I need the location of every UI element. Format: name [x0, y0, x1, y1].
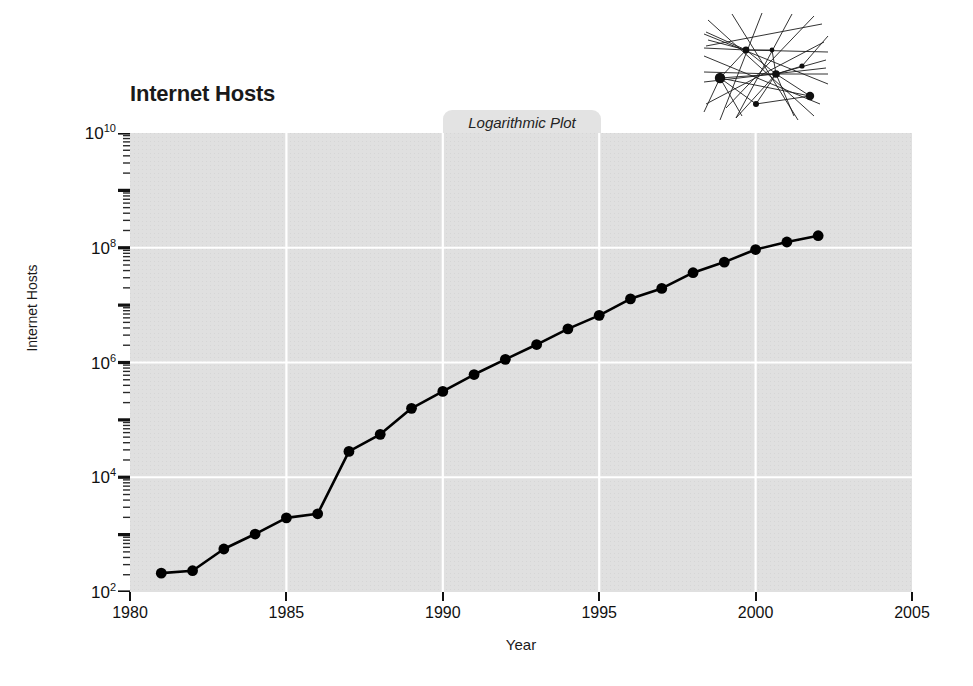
x-axis-tick: [442, 592, 444, 601]
data-point-marker: [813, 230, 824, 241]
y-tick-mantissa: 10: [91, 239, 110, 258]
data-point-marker: [656, 283, 667, 294]
data-point-marker: [500, 354, 511, 365]
page-title: Internet Hosts: [130, 81, 275, 107]
data-point-marker: [469, 369, 480, 380]
data-point-marker: [594, 310, 605, 321]
y-axis-tick-label: 1010: [85, 122, 116, 144]
data-point-marker: [750, 244, 761, 255]
y-tick-exponent: 6: [110, 352, 116, 364]
logarithmic-plot-tab[interactable]: Logarithmic Plot: [443, 110, 601, 135]
x-axis-title: Year: [130, 636, 912, 653]
x-axis-tick-label: 1995: [581, 604, 617, 622]
x-axis-tick-label: 2005: [894, 604, 930, 622]
y-tick-exponent: 8: [110, 237, 116, 249]
x-axis-tick: [598, 592, 600, 601]
data-point-marker: [344, 446, 355, 457]
x-axis-tick-label: 1985: [269, 604, 305, 622]
y-axis-tick-label: 102: [91, 581, 116, 603]
data-point-marker: [563, 323, 574, 334]
data-point-marker: [531, 339, 542, 350]
x-axis-tick-label: 2000: [738, 604, 774, 622]
y-axis-tick-label: 104: [91, 466, 116, 488]
y-axis-labels: 1021041061081010: [0, 133, 116, 592]
y-tick-mantissa: 10: [91, 583, 110, 602]
y-axis-ticks: [118, 133, 130, 592]
y-tick-mantissa: 10: [91, 353, 110, 372]
data-point-marker: [218, 544, 229, 555]
y-tick-exponent: 2: [110, 581, 116, 593]
data-point-marker: [312, 508, 323, 519]
x-axis-tick: [755, 592, 757, 601]
data-point-marker: [781, 237, 792, 248]
y-tick-exponent: 10: [104, 122, 116, 134]
data-point-marker: [406, 403, 417, 414]
y-tick-exponent: 4: [110, 466, 116, 478]
data-point-marker: [250, 529, 261, 540]
x-axis-tick-label: 1990: [425, 604, 461, 622]
data-point-marker: [437, 386, 448, 397]
x-axis-tick: [911, 592, 913, 601]
data-point-marker: [187, 565, 198, 576]
plot-area: [130, 133, 912, 592]
data-point-marker: [375, 429, 386, 440]
network-graph-thumbnail-icon: [702, 12, 830, 122]
y-axis-tick-label: 108: [91, 237, 116, 259]
x-axis-tick: [285, 592, 287, 601]
x-axis-tick-label: 1980: [112, 604, 148, 622]
x-axis-tick: [129, 592, 131, 601]
data-point-marker: [719, 257, 730, 268]
chart-page: Internet Hosts Logarithmic Plot: [0, 0, 973, 686]
y-tick-mantissa: 10: [85, 124, 104, 143]
y-axis-tick-label: 106: [91, 352, 116, 374]
data-point-marker: [156, 568, 167, 579]
plot-tab-label: Logarithmic Plot: [468, 114, 576, 131]
data-point-marker: [688, 267, 699, 278]
data-point-marker: [625, 293, 636, 304]
y-tick-mantissa: 10: [91, 468, 110, 487]
x-axis: 198019851990199520002005: [130, 592, 912, 632]
data-point-marker: [281, 512, 292, 523]
